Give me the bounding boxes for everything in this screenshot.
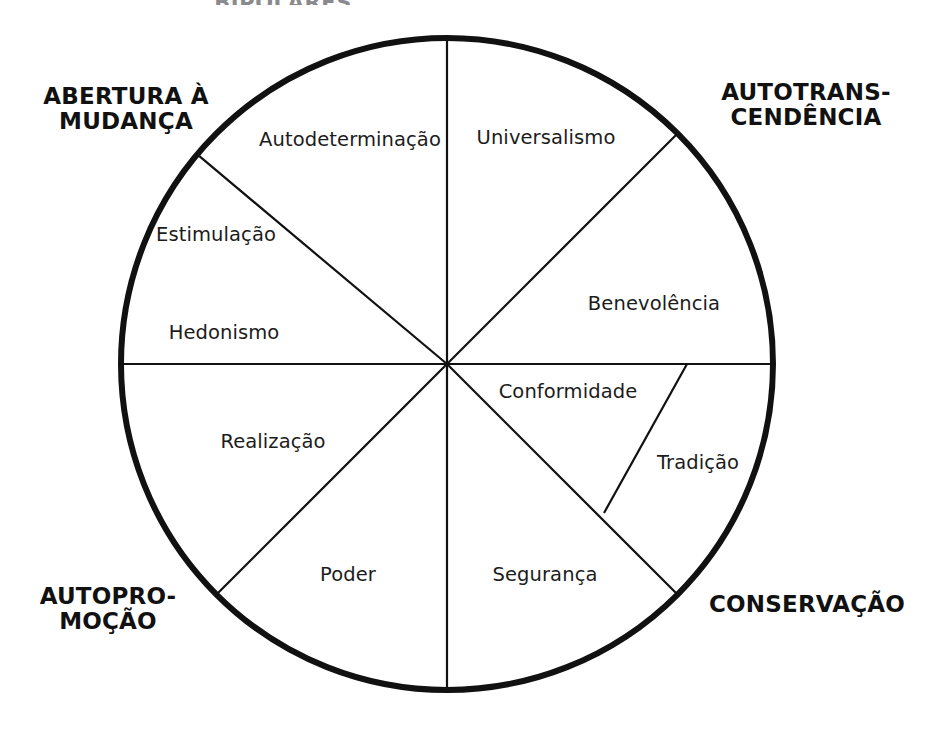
value-label-autodeterminacao: Autodeterminação [259, 128, 441, 151]
value-label-hedonismo: Hedonismo [169, 321, 280, 344]
value-label-benevolencia: Benevolência [588, 292, 720, 315]
value-label-conformidade: Conformidade [499, 380, 638, 403]
value-label-poder: Poder [320, 563, 376, 586]
value-label-seguranca: Segurança [492, 563, 597, 586]
value-label-tradicao: Tradição [657, 451, 739, 474]
pole-label-self-transcendence: AUTOTRANS- CENDÊNCIA [700, 80, 912, 129]
sector-divider-lines [121, 38, 773, 690]
diagram-canvas: BIPOLARES ABERTURA À MUDANÇA AUTOTRANS- … [0, 0, 925, 743]
pole-label-openness-to-change: ABERTURA À MUDANÇA [26, 84, 226, 133]
pole-label-self-enhancement: AUTOPRO- MOÇÃO [8, 584, 208, 633]
divider-line-5 [216, 364, 447, 595]
pole-label-conservation: CONSERVAÇÃO [698, 592, 916, 617]
value-label-universalismo: Universalismo [477, 126, 616, 149]
value-label-realizacao: Realização [220, 430, 325, 453]
cut-off-heading: BIPOLARES [0, 0, 566, 5]
divider-line-1 [447, 133, 678, 364]
value-label-estimulacao: Estimulação [156, 223, 276, 246]
